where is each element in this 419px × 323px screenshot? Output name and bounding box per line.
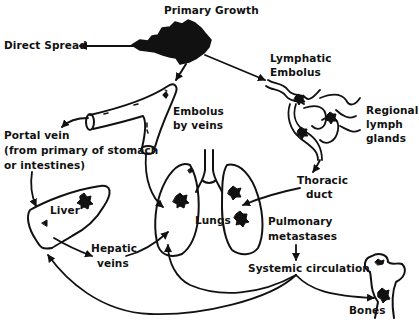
label-thoracic-duct-line1: Thoracic — [297, 173, 348, 188]
label-lymphatic-embolus-line2: Embolus — [270, 65, 321, 80]
label-systemic-circulation: Systemic circulation — [248, 261, 370, 276]
lymph-to-thoracic-arrow — [313, 160, 320, 172]
label-pulmonary-line2: metastases — [268, 229, 337, 244]
label-pulmonary-line1: Pulmonary — [268, 214, 332, 229]
label-portal-vein-line3: or intestines) — [4, 158, 85, 173]
portal-to-liver-arrow — [31, 172, 36, 206]
label-embolus-veins-line2: by veins — [173, 118, 223, 133]
label-direct-spread: Direct Spread — [4, 38, 87, 53]
label-lymphatic-embolus-line1: Lymphatic — [270, 51, 332, 66]
label-regional-line2: lymph — [366, 117, 403, 132]
vein-embolus-arrow — [176, 64, 186, 80]
primary-growth-mass — [132, 20, 211, 64]
vein-to-lungs-arrow — [146, 154, 163, 207]
label-regional-line1: Regional — [366, 103, 419, 118]
lymph-glands — [266, 80, 360, 160]
label-portal-vein-line1: Portal vein — [4, 128, 70, 143]
label-hepatic-veins-line2: veins — [97, 256, 129, 271]
label-embolus-veins-line1: Embolus — [173, 104, 224, 119]
label-bones: Bones — [349, 303, 386, 318]
liver-to-hepatic-arrow — [54, 238, 92, 256]
label-primary-growth: Primary Growth — [164, 3, 259, 18]
lymphatic-embolus-arrow — [205, 55, 265, 80]
label-portal-vein-line2: (from primary of stomach — [4, 143, 158, 158]
label-regional-line3: glands — [366, 131, 406, 146]
label-lungs: Lungs — [195, 213, 231, 228]
thoracic-to-lungs-arrow — [243, 188, 300, 205]
label-liver: Liver — [50, 203, 80, 218]
label-thoracic-duct-line2: duct — [306, 187, 333, 202]
label-hepatic-veins-line1: Hepatic — [91, 241, 137, 256]
portal-vein-arrow — [62, 118, 88, 127]
